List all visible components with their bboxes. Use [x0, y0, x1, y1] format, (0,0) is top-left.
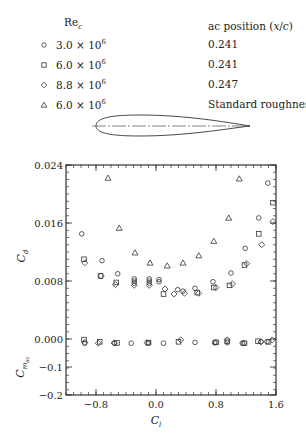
circle-marker: [115, 271, 120, 276]
triangle-marker: [116, 225, 122, 230]
circle-marker: [193, 340, 198, 345]
circle-marker: [79, 232, 84, 237]
circle-marker: [265, 181, 270, 186]
circle-marker: [243, 246, 248, 251]
triangle-marker: [180, 260, 186, 265]
diamond-marker: [82, 260, 88, 266]
circle-marker: [161, 341, 166, 346]
cd-tick-label: 0.024: [34, 160, 63, 171]
cd-axis-label: Cd: [15, 249, 30, 262]
diamond-marker: [196, 290, 202, 296]
diamond-marker: [270, 219, 276, 225]
x-axis-label: Cl: [151, 414, 162, 429]
cd-tick-label: 0.008: [34, 276, 63, 287]
circle-marker: [175, 287, 180, 292]
plot-frame: [66, 165, 276, 395]
cm-axis-label: Cmac: [14, 356, 30, 377]
circle-marker: [181, 289, 186, 294]
triangle-marker: [196, 253, 202, 258]
diamond-marker: [171, 291, 177, 297]
triangle-marker: [147, 260, 153, 265]
x-tick-label: 0.8: [208, 399, 224, 410]
chart: −0.80.00.81.60.0000.0080.0160.024−0.2−0.…: [0, 0, 306, 434]
diamond-marker: [95, 340, 101, 346]
cd-tick-label: 0.000: [34, 334, 63, 345]
cd-tick-label: 0.016: [34, 218, 63, 229]
circle-marker: [256, 216, 261, 221]
triangle-marker: [105, 175, 111, 180]
square-marker: [242, 263, 247, 268]
triangle-marker: [132, 250, 138, 255]
circle-marker: [129, 341, 134, 346]
circle-marker: [211, 279, 216, 284]
square-marker: [211, 285, 216, 290]
cm-tick-label: −0.1: [39, 362, 63, 373]
circle-marker: [265, 340, 270, 345]
triangle-marker: [226, 215, 232, 220]
circle-marker: [229, 271, 234, 276]
triangle-marker: [164, 263, 170, 268]
cm-tick-label: −0.2: [39, 390, 63, 401]
diamond-marker: [162, 286, 168, 292]
square-marker: [256, 232, 261, 237]
diamond-marker: [259, 242, 265, 248]
triangle-marker: [211, 238, 217, 243]
circle-marker: [193, 286, 198, 291]
x-tick-label: 0.0: [148, 399, 164, 410]
diamond-marker: [230, 281, 236, 287]
circle-marker: [100, 258, 105, 263]
x-tick-label: −0.8: [84, 399, 108, 410]
x-tick-label: 1.6: [268, 399, 284, 410]
triangle-marker: [236, 176, 242, 181]
square-marker: [161, 292, 166, 297]
